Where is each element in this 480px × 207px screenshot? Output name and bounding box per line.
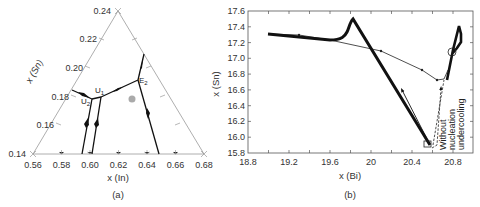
x-axis-label-b: x (Bi): [339, 170, 361, 181]
y-tick-b-2: 17.2: [227, 38, 245, 48]
cooling-arrow: [402, 90, 426, 137]
y-tick-b-6: 16.4: [227, 101, 245, 111]
y-tick-b-3: 17.0: [227, 53, 245, 63]
arrow-icon: [94, 118, 99, 128]
y-tick-a-4: 0.16: [36, 120, 54, 130]
y-tick-b-1: 17.4: [227, 22, 245, 32]
x-axis-ticks-a: [30, 150, 207, 157]
y-tick-a-1: 0.22: [79, 34, 97, 44]
x-tick-a-1: 0.58: [53, 160, 71, 170]
label-u1: U1: [95, 86, 105, 96]
y-tick-b-0: 17.6: [227, 6, 245, 16]
composition-marker: [129, 96, 136, 103]
annotation-undercooling: undercooling: [456, 98, 466, 150]
y-tick-a-2: 0.20: [65, 63, 83, 73]
thick-path: [268, 19, 430, 145]
label-e2: E2: [139, 76, 148, 86]
caption-a: (a): [112, 189, 124, 200]
x-axis-label-a: x (In): [107, 172, 129, 183]
x-tick-a-6: 0.68: [195, 160, 213, 170]
y-axis-label-a: x (Sn): [22, 58, 45, 86]
x-tick-b-0: 18.8: [239, 157, 257, 167]
thin-path: [268, 34, 448, 80]
arrow-icon: [112, 87, 123, 92]
caption-b: (b): [344, 189, 356, 200]
arrow-icon: [140, 59, 143, 70]
y-tick-a-0: 0.24: [93, 6, 111, 16]
y-tick-b-5: 16.6: [227, 85, 245, 95]
y-tick-a-3: 0.18: [51, 92, 69, 102]
y-axis-label-b: x (Sn): [210, 71, 221, 96]
panel-a-ternary: 0.56 0.58 0.60 0.62 0.64 0.66 0.68 0.24 …: [8, 6, 212, 200]
x-tick-a-2: 0.60: [81, 160, 99, 170]
x-tick-b-5: 20.8: [444, 157, 462, 167]
x-tick-b-3: 20: [366, 157, 376, 167]
figure: 0.56 0.58 0.60 0.62 0.64 0.66 0.68 0.24 …: [0, 0, 480, 207]
y-tick-b-4: 16.8: [227, 69, 245, 79]
x-tick-b-1: 19.2: [280, 157, 298, 167]
x-tick-a-0: 0.56: [24, 160, 42, 170]
x-tick-b-4: 20.4: [403, 157, 421, 167]
x-tick-a-3: 0.62: [110, 160, 128, 170]
x-tick-a-4: 0.64: [138, 160, 156, 170]
panel-b-lineplot: 17.6 17.4 17.2 17.0 16.8 16.6 16.4 16.2 …: [210, 6, 473, 200]
y-tick-b-8: 16.0: [227, 132, 245, 142]
y-tick-b-7: 16.2: [227, 116, 245, 126]
right-branch: [447, 26, 461, 80]
y-tick-a-5: 0.14: [8, 149, 26, 159]
x-tick-a-5: 0.66: [167, 160, 185, 170]
x-tick-b-2: 19.6: [321, 157, 339, 167]
ternary-triangle: [33, 11, 204, 154]
